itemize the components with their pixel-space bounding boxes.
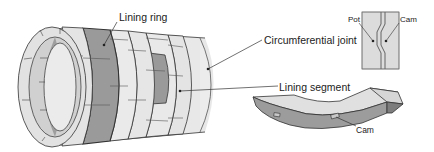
tunnel-lining-diagram: Lining ring Circumferential joint Lining… <box>0 0 434 152</box>
circumferential-joint-label: Circumferential joint <box>264 34 357 46</box>
lining-ring-label: Lining ring <box>119 11 168 23</box>
label-circumferential-joint: Circumferential joint <box>207 34 357 70</box>
tunnel-cylinder <box>18 27 214 147</box>
diagram-svg: Lining ring Circumferential joint Lining… <box>0 0 434 152</box>
joint-detail: Pot Cam <box>348 12 417 69</box>
cam-detail-label: Cam <box>400 15 417 24</box>
cam-segment-label: Cam <box>356 125 374 135</box>
lining-segment-3d <box>253 88 403 129</box>
pot-label: Pot <box>348 15 361 24</box>
lining-segment-label: Lining segment <box>279 81 350 93</box>
